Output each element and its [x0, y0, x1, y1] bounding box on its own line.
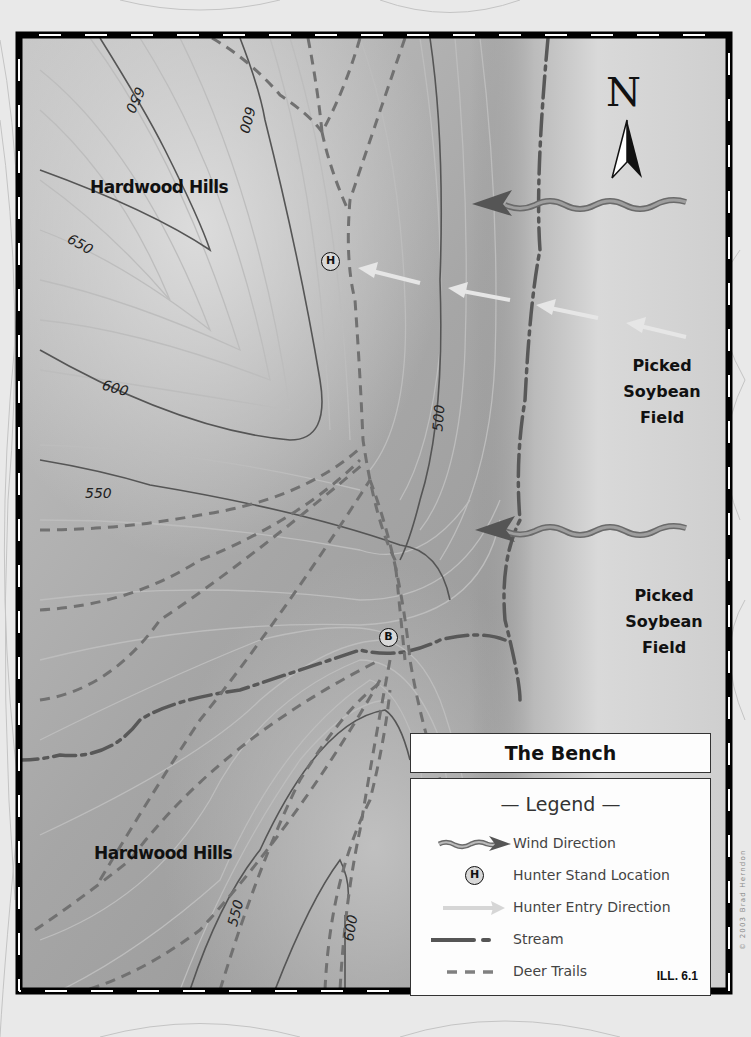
- label-soybean-field-north: Picked Soybean Field: [612, 353, 712, 431]
- hunter-entry-arrow-icon: [431, 895, 511, 921]
- legend-item-hunter-stand: H Hunter Stand Location: [411, 863, 710, 889]
- legend-label: Hunter Stand Location: [513, 867, 670, 883]
- legend: — Legend — Wind Direction H Hunter Stand…: [410, 778, 711, 996]
- label-hardwood-hills-south: Hardwood Hills: [94, 843, 232, 863]
- legend-item-hunter-entry: Hunter Entry Direction: [411, 895, 710, 921]
- legend-label: Wind Direction: [513, 835, 616, 851]
- wind-direction-icon: [431, 831, 511, 857]
- label-text: Field: [612, 405, 712, 431]
- legend-label: Hunter Entry Direction: [513, 899, 671, 915]
- label-text: Soybean: [612, 379, 712, 405]
- legend-item-wind: Wind Direction: [411, 831, 710, 857]
- legend-item-stream: Stream: [411, 927, 710, 953]
- hunter-stand-icon: H: [465, 866, 484, 885]
- label-text: Soybean: [614, 609, 714, 635]
- label-text: Field: [614, 635, 714, 661]
- label-text: Picked: [614, 583, 714, 609]
- label-soybean-field-south: Picked Soybean Field: [614, 583, 714, 661]
- label-text: Picked: [612, 353, 712, 379]
- hunter-stand-marker[interactable]: H: [321, 252, 340, 271]
- stream-icon: [431, 927, 511, 953]
- compass-north-label: N: [606, 72, 641, 112]
- bench-marker[interactable]: B: [379, 628, 398, 647]
- contour-label-550-left: 550: [85, 485, 112, 501]
- copyright-notice: © 2003 Brad Herndon: [739, 849, 747, 950]
- label-hardwood-hills-north: Hardwood Hills: [90, 177, 228, 197]
- illustration-id: ILL. 6.1: [657, 969, 698, 983]
- contour-label-500: 500: [429, 404, 447, 432]
- legend-label: Deer Trails: [513, 963, 587, 979]
- legend-label: Stream: [513, 931, 564, 947]
- deer-trails-icon: [431, 959, 511, 985]
- legend-title: — Legend —: [411, 793, 710, 815]
- map-title: The Bench: [410, 733, 711, 773]
